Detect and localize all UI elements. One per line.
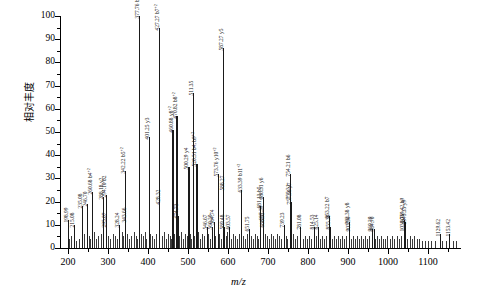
x-axis-tick-label: 400 xyxy=(141,256,156,267)
spectrum-peak-minor xyxy=(137,239,138,248)
x-axis-tick xyxy=(388,249,389,254)
spectrum-peak-minor xyxy=(152,236,153,248)
spectrum-peak-minor xyxy=(326,236,327,248)
x-axis-minor-tick xyxy=(288,249,289,252)
mass-spectrum-chart: 相对丰度 m/z 0102030405060708090100 20030040… xyxy=(0,0,477,301)
spectrum-peak-minor xyxy=(69,239,70,248)
y-axis-tick-label: 100 xyxy=(41,11,55,21)
y-axis-tick-label: 50 xyxy=(46,127,56,137)
x-axis-minor-tick xyxy=(128,249,129,252)
x-axis-tick xyxy=(428,249,429,254)
spectrum-peak-minor xyxy=(305,236,306,248)
peak-label: 587.27 y5 xyxy=(220,29,226,51)
spectrum-peak-minor xyxy=(357,236,358,248)
spectrum-peak xyxy=(284,225,285,248)
y-axis-tick-label: 40 xyxy=(46,150,56,160)
spectrum-peak-minor xyxy=(271,234,272,248)
x-axis-tick xyxy=(268,249,269,254)
peak-label: 855.39 xyxy=(327,215,333,230)
spectrum-peak-minor xyxy=(281,239,282,248)
spectrum-peak-minor xyxy=(340,239,341,248)
peak-label: 757.30 y7 xyxy=(288,182,294,204)
spectrum-peak-minor xyxy=(181,232,182,248)
spectrum-peak-minor xyxy=(123,236,124,248)
spectrum-peak-minor xyxy=(134,232,135,248)
spectrum-peak-minor xyxy=(410,236,411,248)
peak-label: 603.57 xyxy=(226,215,232,230)
spectrum-peak-minor xyxy=(79,239,80,248)
spectrum-peak xyxy=(119,225,120,248)
spectrum-peak-minor xyxy=(379,239,380,248)
plot-area: 198.99215.08235.08246.70260.68 b4+2288.1… xyxy=(60,16,460,248)
spectrum-peak xyxy=(172,130,173,248)
peak-label: 781.08 xyxy=(297,215,303,230)
spectrum-peak-minor xyxy=(383,239,384,248)
x-axis-tick xyxy=(108,249,109,254)
spectrum-peak-minor xyxy=(332,239,333,248)
spectrum-peak-minor xyxy=(156,234,157,248)
y-axis-tick-label: 80 xyxy=(46,57,56,67)
y-axis-tick-label: 10 xyxy=(46,220,56,230)
y-axis-tick-label: 60 xyxy=(46,104,56,114)
spectrum-peak xyxy=(149,137,150,248)
peak-label: 686.31 y6 xyxy=(259,178,265,200)
x-axis-minor-tick xyxy=(448,249,449,252)
spectrum-peak xyxy=(87,204,88,248)
x-axis-minor-tick xyxy=(408,249,409,252)
peak-label: 401.25 y3 xyxy=(145,117,151,139)
spectrum-peak-minor xyxy=(275,239,276,248)
peak-label: 573.76 y10+2 xyxy=(214,147,220,176)
spectrum-peak-minor xyxy=(442,241,443,248)
peak-label: 260.68 b4+2 xyxy=(89,169,95,195)
spectrum-peak-minor xyxy=(381,236,382,248)
spectrum-peak-minor xyxy=(287,239,288,248)
peak-label: 428.32 xyxy=(156,189,162,204)
peak-label: 1153.42 xyxy=(446,219,452,237)
spectrum-peak-minor xyxy=(401,236,402,248)
spectrum-peak-minor xyxy=(90,239,91,248)
spectrum-peak-minor xyxy=(183,239,184,248)
peak-label: 474.73 xyxy=(174,203,180,218)
spectrum-peak-minor xyxy=(425,241,426,248)
spectrum-peak-minor xyxy=(428,241,429,248)
spectrum-peak xyxy=(74,225,75,248)
peak-label: 470.82 b8+2 xyxy=(173,92,179,118)
spectrum-peak-minor xyxy=(131,236,132,248)
spectrum-peak xyxy=(139,16,140,248)
spectrum-peak-minor xyxy=(267,236,268,248)
spectrum-peak-minor xyxy=(361,236,362,248)
spectrum-peak-minor xyxy=(390,239,391,248)
spectrum-peak-minor xyxy=(414,236,415,248)
peak-label: 295.07 xyxy=(103,212,109,227)
spectrum-peak xyxy=(330,227,331,248)
spectrum-peak-minor xyxy=(71,236,72,248)
spectrum-peak-minor xyxy=(342,236,343,248)
spectrum-peak-minor xyxy=(435,241,436,248)
spectrum-peak-minor xyxy=(94,232,95,248)
spectrum-peak-minor xyxy=(320,239,321,248)
spectrum-peak-minor xyxy=(110,239,111,248)
spectrum-peak-minor xyxy=(419,239,420,248)
spectrum-peak-minor xyxy=(171,239,172,248)
peak-label: 588.27 xyxy=(220,175,226,190)
spectrum-peak-minor xyxy=(166,239,167,248)
spectrum-peak-minor xyxy=(210,239,211,248)
y-axis-tick-label: 0 xyxy=(50,243,55,253)
x-axis-tick-label: 1100 xyxy=(418,256,438,267)
y-axis-tick-label: 20 xyxy=(46,197,56,207)
peak-label: 500.29 y4 xyxy=(185,147,191,169)
spectrum-peak xyxy=(249,229,250,248)
spectrum-peak-minor xyxy=(129,239,130,248)
spectrum-peak xyxy=(82,206,83,248)
spectrum-peak xyxy=(106,225,107,248)
spectrum-peak-minor xyxy=(273,236,274,248)
spectrum-peak-minor xyxy=(150,234,151,248)
spectrum-peak-minor xyxy=(277,234,278,248)
spectrum-peak-minor xyxy=(215,236,216,248)
spectrum-peak-minor xyxy=(198,232,199,248)
peak-label: 903.30 xyxy=(346,217,352,232)
spectrum-peak-minor xyxy=(453,241,454,248)
x-axis-tick-label: 200 xyxy=(61,256,76,267)
spectrum-peak-minor xyxy=(431,241,432,248)
spectrum-peak-minor xyxy=(365,236,366,248)
